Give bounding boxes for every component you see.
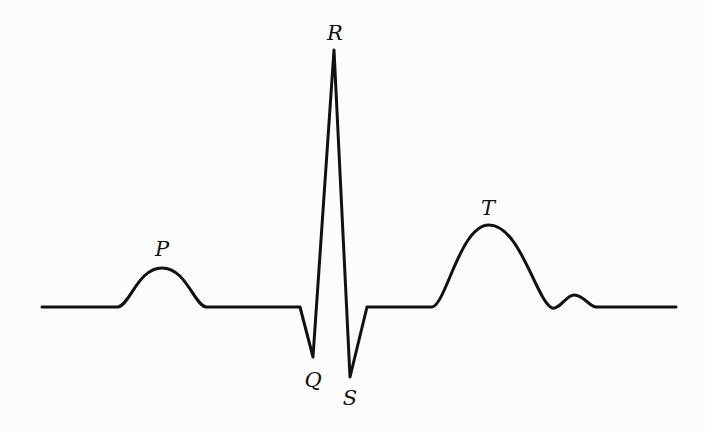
r-wave-label: R xyxy=(326,21,343,45)
s-wave-label: S xyxy=(343,386,357,410)
t-wave-label: T xyxy=(481,196,497,220)
ecg-waveform-canvas: P Q R S T xyxy=(0,0,705,432)
p-wave-label: P xyxy=(154,237,170,261)
ecg-trace xyxy=(42,50,676,377)
ecg-diagram: P Q R S T xyxy=(0,0,705,432)
q-wave-label: Q xyxy=(304,368,321,392)
